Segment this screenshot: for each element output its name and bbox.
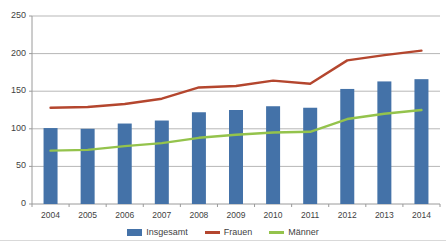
bar <box>155 121 169 204</box>
legend-label: Insgesamt <box>146 227 188 237</box>
x-axis-tick-label: 2005 <box>68 211 108 220</box>
x-axis-tick-label: 2011 <box>290 211 330 220</box>
bar <box>414 79 428 204</box>
line-series-group <box>51 51 422 151</box>
x-axis-tick-label: 2009 <box>216 211 256 220</box>
y-axis-tick-label: 50 <box>2 161 26 170</box>
bar <box>229 110 243 204</box>
x-axis-tick-label: 2004 <box>31 211 71 220</box>
x-axis-tick-label: 2008 <box>179 211 219 220</box>
y-axis-tick-label: 150 <box>2 86 26 95</box>
x-axis-tick-label: 2006 <box>105 211 145 220</box>
legend-item[interactable]: Insgesamt <box>127 227 188 237</box>
y-axis-tick-label: 250 <box>2 11 26 20</box>
legend-label: Männer <box>288 227 319 237</box>
x-axis-tick-label: 2010 <box>253 211 293 220</box>
legend-swatch-icon <box>269 231 284 234</box>
legend-swatch-icon <box>205 231 220 234</box>
bar <box>44 128 58 204</box>
bar <box>377 81 391 204</box>
chart-container: 050100150200250 200420052006200720082009… <box>0 0 446 241</box>
x-axis-tick-label: 2013 <box>364 211 404 220</box>
x-axis-tick-label: 2014 <box>401 211 441 220</box>
chart-legend: InsgesamtFrauenMänner <box>0 227 446 237</box>
legend-item[interactable]: Männer <box>269 227 319 237</box>
y-axis-tick-label: 0 <box>2 199 26 208</box>
bar <box>303 108 317 204</box>
bar <box>118 124 132 204</box>
bar <box>81 129 95 204</box>
y-axis-tick-label: 200 <box>2 49 26 58</box>
chart-plot-area <box>0 0 446 241</box>
bar <box>340 89 354 204</box>
bar <box>266 106 280 204</box>
legend-item[interactable]: Frauen <box>205 227 253 237</box>
x-axis-tick-label: 2012 <box>327 211 367 220</box>
line-frauen <box>51 51 422 108</box>
legend-swatch-icon <box>127 229 142 236</box>
x-axis-tick-label: 2007 <box>142 211 182 220</box>
bar <box>192 112 206 204</box>
bar-series-insgesamt <box>44 79 429 204</box>
legend-label: Frauen <box>224 227 253 237</box>
y-axis-tick-label: 100 <box>2 124 26 133</box>
